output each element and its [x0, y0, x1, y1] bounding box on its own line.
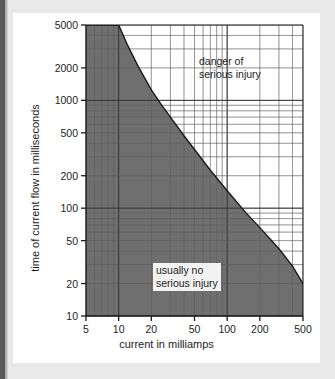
danger-region-note: danger of serious injury — [199, 55, 261, 81]
y-tick-label: 2000 — [38, 63, 78, 74]
figure-card: 102050100200500100020005000 510205010020… — [13, 13, 320, 363]
y-tick-label: 500 — [38, 128, 78, 139]
y-axis-title-wrap: time of current flow in milliseconds — [27, 13, 43, 363]
x-tick-label: 20 — [131, 324, 171, 335]
danger-region-note-line1: danger of — [199, 55, 261, 68]
x-tick-label: 200 — [240, 324, 280, 335]
left-accent-bar-shadow — [5, 0, 8, 379]
danger-region-note-line2: serious injury — [199, 68, 261, 81]
y-tick-label: 10 — [38, 311, 78, 322]
safe-region-note-line2: serious injury — [156, 277, 218, 290]
x-tick-label: 500 — [283, 324, 323, 335]
y-tick-label: 1000 — [38, 95, 78, 106]
y-axis-title: time of current flow in milliseconds — [29, 104, 41, 272]
y-tick-label: 20 — [38, 279, 78, 290]
y-tick-label: 100 — [38, 203, 78, 214]
chart-figure: 102050100200500100020005000 510205010020… — [13, 13, 320, 363]
safe-region-note: usually no serious injury — [153, 263, 221, 291]
x-axis-title: current in milliamps — [13, 338, 320, 350]
screenshot-root: 102050100200500100020005000 510205010020… — [0, 0, 335, 379]
y-tick-label: 50 — [38, 236, 78, 247]
y-tick-label: 5000 — [38, 20, 78, 31]
y-tick-label: 200 — [38, 171, 78, 182]
safe-region-note-line1: usually no — [156, 264, 218, 277]
